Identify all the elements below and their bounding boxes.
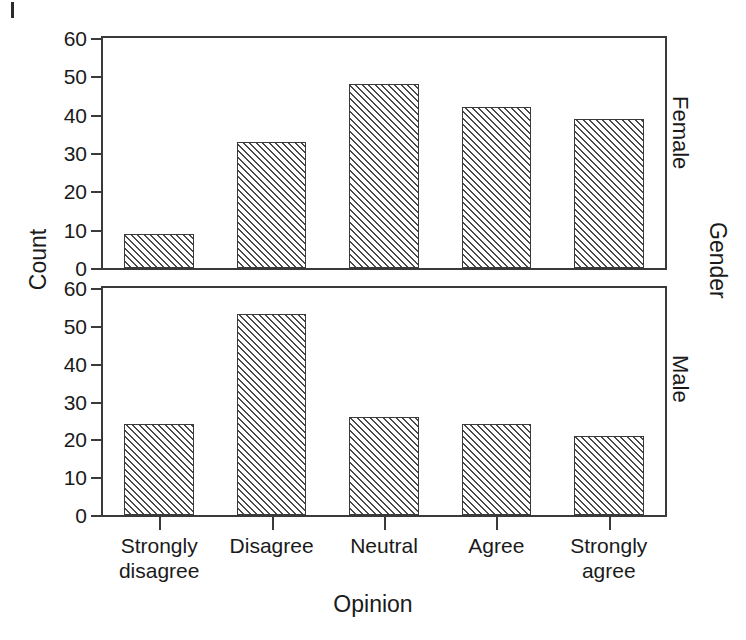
x-axis-tick-label-line: Strongly bbox=[570, 533, 647, 558]
x-axis-tick bbox=[496, 517, 498, 530]
x-axis-tick-label: Agree bbox=[468, 533, 524, 558]
x-axis-tick bbox=[159, 517, 161, 530]
x-axis-tick-label-line: Agree bbox=[468, 533, 524, 558]
x-axis-tick-label-line: Strongly bbox=[119, 533, 200, 558]
x-axis-title: Opinion bbox=[0, 591, 746, 618]
strip-label-female: Female bbox=[667, 96, 693, 169]
strip-title-gender: Gender bbox=[704, 222, 731, 299]
x-axis-tick bbox=[384, 517, 386, 530]
x-axis-tick-label-line: agree bbox=[570, 558, 647, 583]
x-axis-tick-label: Disagree bbox=[230, 533, 314, 558]
x-axis-tick-label-line: disagree bbox=[119, 558, 200, 583]
bar-chart-figure: 0102030405060 0102030405060 Stronglydisa… bbox=[0, 0, 746, 640]
x-axis-tick-label: Stronglydisagree bbox=[119, 533, 200, 583]
y-axis-title: Count bbox=[25, 200, 52, 320]
x-axis-tick bbox=[272, 517, 274, 530]
x-axis-tick-label-line: Disagree bbox=[230, 533, 314, 558]
strip-label-male: Male bbox=[667, 355, 693, 403]
x-axis: StronglydisagreeDisagreeNeutralAgreeStro… bbox=[0, 0, 746, 640]
x-axis-tick-label: Stronglyagree bbox=[570, 533, 647, 583]
x-axis-tick-label: Neutral bbox=[350, 533, 418, 558]
x-axis-tick-label-line: Neutral bbox=[350, 533, 418, 558]
x-axis-tick bbox=[609, 517, 611, 530]
